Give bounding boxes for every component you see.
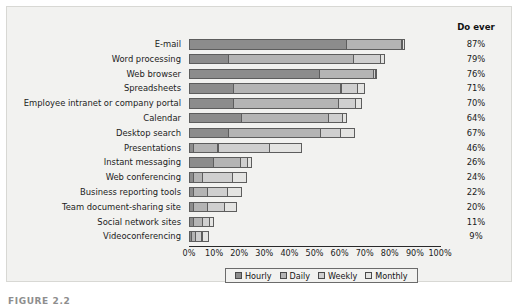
category-label: Spreadsheets xyxy=(7,82,185,95)
bar-segment-weekly xyxy=(207,187,227,198)
do-ever-value: 11% xyxy=(447,216,505,229)
bar-segment-hourly xyxy=(189,157,214,168)
do-ever-value: 71% xyxy=(447,82,505,95)
bar-segment-monthly xyxy=(342,113,347,124)
bar-row xyxy=(189,68,440,81)
category-label: Team document-sharing site xyxy=(7,201,185,214)
bar-row xyxy=(189,38,440,51)
legend-swatch-icon xyxy=(318,272,325,279)
x-tick-label: 90% xyxy=(406,248,424,258)
do-ever-value: 46% xyxy=(447,142,505,155)
bar-segment-monthly xyxy=(340,128,355,139)
do-ever-header: Do ever xyxy=(447,17,505,38)
legend-label: Weekly xyxy=(328,271,357,281)
bar-row xyxy=(189,112,440,125)
do-ever-value: 22% xyxy=(447,186,505,199)
bar-segment-monthly xyxy=(355,98,363,109)
legend-label: Monthly xyxy=(375,271,407,281)
bar-row xyxy=(189,171,440,184)
bar-row xyxy=(189,142,440,155)
stacked-bar xyxy=(189,113,350,124)
bar-row xyxy=(189,186,440,199)
stacked-bar xyxy=(189,98,365,109)
category-label: Word processing xyxy=(7,53,185,66)
bar-segment-hourly xyxy=(189,83,234,94)
do-ever-value: 67% xyxy=(447,127,505,140)
stacked-bar xyxy=(189,187,244,198)
x-tick-label: 70% xyxy=(356,248,374,258)
bar-segment-hourly xyxy=(189,69,320,80)
category-label: Calendar xyxy=(7,112,185,125)
legend-label: Hourly xyxy=(245,271,272,281)
legend-item-daily: Daily xyxy=(280,271,310,281)
do-ever-values: 87%79%76%71%70%64%67%46%26%24%22%20%11%9… xyxy=(447,38,505,244)
stacked-bar xyxy=(189,128,357,139)
bar-row xyxy=(189,53,440,66)
bar-segment-monthly xyxy=(402,39,405,50)
legend-label: Daily xyxy=(290,271,310,281)
legend-swatch-icon xyxy=(235,272,242,279)
stacked-bar xyxy=(189,157,254,168)
legend-item-monthly: Monthly xyxy=(365,271,407,281)
stacked-bar xyxy=(189,39,407,50)
x-tick-label: 30% xyxy=(255,248,273,258)
plot-area xyxy=(189,38,440,246)
do-ever-value: 87% xyxy=(447,38,505,51)
category-label: Business reporting tools xyxy=(7,186,185,199)
bar-segment-monthly xyxy=(232,172,247,183)
x-tick-label: 40% xyxy=(280,248,298,258)
bar-segment-monthly xyxy=(269,143,302,154)
bar-segment-hourly xyxy=(189,39,347,50)
bar-segment-monthly xyxy=(202,231,210,242)
stacked-bar xyxy=(189,143,304,154)
bar-segment-daily xyxy=(319,69,374,80)
bar-segment-monthly xyxy=(357,83,365,94)
x-tick-label: 10% xyxy=(205,248,223,258)
x-axis-line xyxy=(189,246,441,247)
bar-segment-weekly xyxy=(328,113,343,124)
category-axis-labels: E-mailWord processingWeb browserSpreadsh… xyxy=(7,38,185,246)
category-label: Presentations xyxy=(7,142,185,155)
figure-caption: FIGURE 2.2 xyxy=(8,296,70,306)
bar-segment-monthly xyxy=(227,187,242,198)
bar-row xyxy=(189,230,440,243)
figure-panel: E-mailWord processingWeb browserSpreadsh… xyxy=(6,6,512,282)
category-label: E-mail xyxy=(7,38,185,51)
stacked-bar xyxy=(189,54,387,65)
do-ever-value: 24% xyxy=(447,171,505,184)
x-axis-tick-labels: 0%10%20%30%40%50%60%70%80%90%100% xyxy=(189,248,441,260)
bar-segment-monthly xyxy=(380,54,385,65)
bar-segment-hourly xyxy=(189,113,242,124)
bar-segment-daily xyxy=(233,83,341,94)
bar-segment-hourly xyxy=(189,128,229,139)
chart-legend: HourlyDailyWeeklyMonthly xyxy=(225,268,418,283)
do-ever-value: 9% xyxy=(447,230,505,243)
bar-segment-daily xyxy=(233,98,338,109)
x-tick-label: 60% xyxy=(331,248,349,258)
bar-segment-weekly xyxy=(338,98,356,109)
legend-swatch-icon xyxy=(280,272,287,279)
stacked-bar xyxy=(189,202,239,213)
category-label: Employee intranet or company portal xyxy=(7,97,185,110)
do-ever-value: 20% xyxy=(447,201,505,214)
stacked-bar xyxy=(189,217,217,228)
bar-segment-weekly xyxy=(320,128,340,139)
stacked-bar xyxy=(189,69,380,80)
bar-segment-weekly xyxy=(202,172,232,183)
bar-segment-monthly xyxy=(375,69,378,80)
do-ever-value: 76% xyxy=(447,68,505,81)
bar-segment-weekly xyxy=(341,83,359,94)
category-label: Instant messaging xyxy=(7,156,185,169)
bar-row xyxy=(189,127,440,140)
bar-row xyxy=(189,97,440,110)
bar-segment-daily xyxy=(346,39,401,50)
do-ever-value: 26% xyxy=(447,156,505,169)
bar-segment-monthly xyxy=(224,202,237,213)
x-tick-label: 20% xyxy=(230,248,248,258)
bar-row xyxy=(189,156,440,169)
x-tick-label: 0% xyxy=(183,248,196,258)
legend-swatch-icon xyxy=(365,272,372,279)
do-ever-value: 64% xyxy=(447,112,505,125)
bar-segment-hourly xyxy=(189,54,229,65)
bar-segment-daily xyxy=(228,54,354,65)
